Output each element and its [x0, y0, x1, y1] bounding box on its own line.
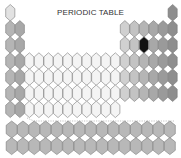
element-cell	[120, 37, 129, 54]
element-cell	[159, 37, 168, 54]
f-block-cell	[142, 138, 153, 155]
element-cell	[6, 101, 15, 118]
element-cell	[168, 37, 177, 54]
element-cell	[92, 69, 101, 86]
element-cell	[111, 85, 120, 102]
element-cell	[44, 85, 53, 102]
element-cell	[92, 85, 101, 102]
element-cell	[15, 85, 24, 102]
element-cell	[73, 101, 82, 118]
element-cell	[44, 53, 53, 70]
element-cell	[168, 21, 177, 37]
element-cell	[130, 37, 139, 54]
element-cell	[25, 101, 34, 118]
element-cell	[139, 37, 148, 54]
element-cell	[149, 37, 158, 54]
element-cell	[159, 69, 168, 86]
element-cell	[6, 53, 15, 70]
f-block-cell	[40, 138, 51, 155]
element-cell	[53, 85, 62, 102]
element-cell	[15, 21, 24, 37]
element-cell	[6, 69, 15, 86]
f-block-cell	[108, 121, 119, 138]
element-cell	[34, 69, 43, 86]
element-cell	[53, 101, 62, 118]
element-cell	[34, 85, 43, 102]
f-block-cell	[29, 121, 40, 138]
f-block-cell	[51, 138, 62, 155]
element-cell	[168, 85, 177, 102]
element-cell	[6, 5, 15, 22]
element-cell	[25, 53, 34, 70]
element-cell	[73, 69, 82, 86]
element-cell	[120, 53, 129, 70]
f-block-cell	[63, 138, 74, 155]
element-cell	[168, 69, 177, 86]
f-block-connector	[27, 118, 174, 121]
element-cell	[149, 53, 158, 70]
f-block-cell	[74, 121, 85, 138]
f-block-cell	[153, 138, 164, 155]
element-cell	[159, 53, 168, 70]
element-cell	[73, 85, 82, 102]
f-block-cell	[131, 121, 142, 138]
element-cell	[92, 101, 101, 118]
element-cell	[130, 69, 139, 86]
element-cell	[101, 85, 110, 102]
element-cell	[15, 53, 24, 70]
element-cell	[101, 69, 110, 86]
f-block-cell	[164, 121, 175, 138]
element-cell	[15, 101, 24, 118]
element-cell	[73, 53, 82, 70]
element-cell	[168, 5, 177, 22]
element-cell	[53, 69, 62, 86]
element-cell	[120, 85, 129, 102]
element-cell	[25, 69, 34, 86]
element-cell	[101, 53, 110, 70]
element-cell	[34, 53, 43, 70]
element-cell	[6, 85, 15, 102]
f-block-cell	[63, 121, 74, 138]
element-cell	[34, 101, 43, 118]
f-block-cell	[6, 121, 17, 138]
f-block-cell	[29, 138, 40, 155]
element-cell	[25, 85, 34, 102]
element-cell	[159, 21, 168, 37]
element-cell	[111, 101, 120, 118]
f-block-cell	[153, 121, 164, 138]
element-cell	[15, 37, 24, 54]
element-cell	[6, 37, 15, 54]
element-cell	[63, 53, 72, 70]
f-block-cell	[40, 121, 51, 138]
f-block-cell	[119, 138, 130, 155]
element-cell	[44, 101, 53, 118]
f-block-cell	[119, 121, 130, 138]
f-block-cell	[6, 138, 17, 155]
element-cell	[149, 85, 158, 102]
f-block-cell	[142, 121, 153, 138]
element-cell	[92, 53, 101, 70]
element-cell	[44, 69, 53, 86]
element-cell	[139, 69, 148, 86]
element-cell	[130, 21, 139, 37]
element-cell	[63, 101, 72, 118]
element-cell	[82, 53, 91, 70]
element-cell	[63, 85, 72, 102]
f-block-cell	[164, 138, 175, 155]
element-cell	[159, 85, 168, 102]
element-cell	[82, 85, 91, 102]
f-block-cell	[18, 138, 29, 155]
element-cell	[139, 21, 148, 37]
element-cell	[139, 53, 148, 70]
f-block-cell	[108, 138, 119, 155]
element-cell	[130, 53, 139, 70]
f-block-cell	[51, 121, 62, 138]
element-cell	[15, 69, 24, 86]
element-cell	[111, 69, 120, 86]
element-cell	[101, 101, 110, 118]
f-block-cell	[74, 138, 85, 155]
periodic-table-diagram	[0, 0, 181, 158]
element-cell	[63, 69, 72, 86]
f-block-cell	[97, 138, 108, 155]
element-cell	[120, 69, 129, 86]
